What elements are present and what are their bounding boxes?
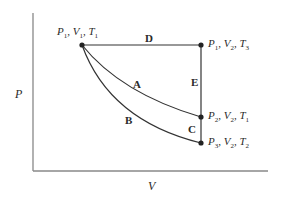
x-axis-label: V — [148, 180, 155, 192]
path-c-label: C — [188, 124, 196, 135]
path-a-label: A — [133, 79, 141, 90]
pv-diagram-canvas — [0, 0, 282, 199]
path-b — [82, 45, 201, 143]
point-state-2 — [198, 114, 203, 119]
state-top-right-label: P1, V2, T3 — [208, 38, 249, 52]
point-state-3 — [198, 140, 203, 145]
point-state-1 — [79, 42, 84, 47]
state-1-label: P1, V1, T1 — [57, 26, 98, 40]
point-state-top-right — [198, 42, 203, 47]
path-b-label: B — [125, 115, 132, 126]
y-axis-label: P — [15, 88, 22, 100]
state-2-label: P2, V2, T1 — [208, 110, 249, 124]
path-a — [82, 45, 201, 117]
state-3-label: P3, V2, T2 — [208, 136, 249, 150]
path-d-label: D — [145, 33, 153, 44]
path-e-label: E — [191, 77, 198, 88]
